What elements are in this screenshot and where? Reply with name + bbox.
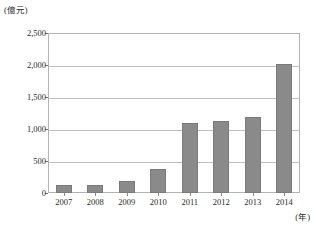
bar-slot: [245, 33, 261, 193]
x-tick-mark: [284, 193, 285, 196]
y-axis-unit-label: (億元): [4, 3, 28, 15]
x-tick-label-2013: 2013: [244, 197, 261, 207]
bar-slot: [182, 33, 198, 193]
bar-slot: [150, 33, 166, 193]
y-tick-label: 500: [2, 156, 46, 166]
y-tick-label: 1,000: [2, 124, 46, 134]
x-tick-mark: [95, 193, 96, 196]
bars-layer: [48, 33, 300, 193]
y-tick-label: 2,000: [2, 60, 46, 70]
x-tick-mark: [64, 193, 65, 196]
x-tick-label-2014: 2014: [276, 197, 293, 207]
y-tick-label: 0: [2, 188, 46, 198]
bar-2011: [182, 123, 198, 193]
x-axis-unit-label: (年): [295, 210, 310, 222]
bar-slot: [119, 33, 135, 193]
x-tick-mark: [253, 193, 254, 196]
bar-2008: [87, 185, 103, 193]
bar-2014: [276, 64, 292, 193]
bar-chart-figure: (億元) 05001,0001,5002,0002,500 2007200820…: [0, 0, 316, 228]
bar-2009: [119, 181, 135, 193]
bar-slot: [213, 33, 229, 193]
x-tick-mark: [221, 193, 222, 196]
bar-slot: [56, 33, 72, 193]
bar-2012: [213, 121, 229, 193]
x-tick-label-2011: 2011: [181, 197, 198, 207]
y-tick-label: 1,500: [2, 92, 46, 102]
bar-2013: [245, 117, 261, 193]
bar-slot: [87, 33, 103, 193]
x-tick-label-2012: 2012: [213, 197, 230, 207]
x-tick-mark: [158, 193, 159, 196]
x-tick-mark: [127, 193, 128, 196]
y-tick-label: 2,500: [2, 28, 46, 38]
bar-2007: [56, 185, 72, 193]
x-tick-label-2008: 2008: [87, 197, 104, 207]
x-tick-label-2007: 2007: [55, 197, 72, 207]
x-tick-label-2010: 2010: [150, 197, 167, 207]
x-tick-mark: [190, 193, 191, 196]
x-tick-label-2009: 2009: [118, 197, 135, 207]
bar-slot: [276, 33, 292, 193]
bar-2010: [150, 169, 166, 193]
